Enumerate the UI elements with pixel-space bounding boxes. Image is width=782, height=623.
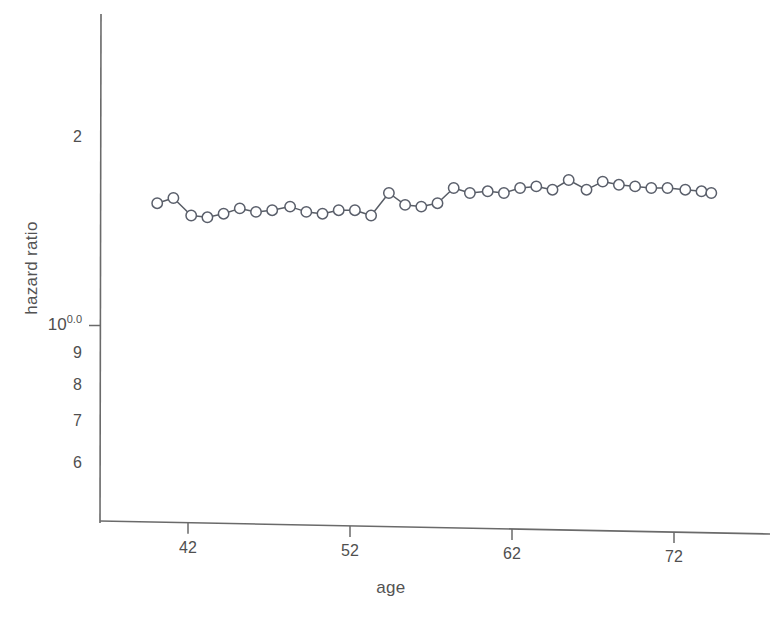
data-point [186, 210, 196, 220]
data-point [267, 205, 277, 215]
data-point [334, 205, 344, 215]
x-tick-label: 62 [482, 545, 542, 563]
data-point [251, 207, 261, 217]
data-point [432, 198, 442, 208]
data-point [581, 185, 591, 195]
x-tick-label: 72 [644, 548, 704, 566]
chart-plot-area [0, 0, 782, 623]
data-point [400, 200, 410, 210]
data-point [366, 210, 376, 220]
x-tick-label: 52 [320, 542, 380, 560]
data-point [152, 198, 162, 208]
data-markers [152, 175, 717, 223]
data-point [285, 201, 295, 211]
chart-figure: hazard ratio age 42526272 2100.09876 [0, 0, 782, 623]
data-point [547, 185, 557, 195]
data-point [317, 209, 327, 219]
data-point [614, 180, 624, 190]
data-point [598, 176, 608, 186]
data-point [301, 207, 311, 217]
data-point [483, 186, 493, 196]
y-tick-label-minor: 6 [40, 454, 82, 472]
data-point [706, 188, 716, 198]
y-axis-line [100, 14, 101, 523]
data-series-hazard-ratio [152, 175, 717, 223]
y-tick-exponent: 0.0 [67, 313, 82, 325]
data-point [168, 193, 178, 203]
data-point [531, 181, 541, 191]
data-point [662, 183, 672, 193]
y-tick-label-minor: 8 [40, 376, 82, 394]
data-point [218, 209, 228, 219]
data-point [630, 181, 640, 191]
y-tick-label: 2 [40, 128, 82, 146]
data-point [350, 205, 360, 215]
x-tick-label: 42 [158, 539, 218, 557]
axis-spines [100, 14, 770, 534]
data-point [499, 188, 509, 198]
y-tick-label-minor: 9 [40, 344, 82, 362]
data-point [564, 175, 574, 185]
data-point [646, 183, 656, 193]
data-point [235, 203, 245, 213]
data-point [202, 212, 212, 222]
data-point [515, 183, 525, 193]
data-point [416, 201, 426, 211]
y-tick-label-decade: 100.0 [20, 315, 82, 335]
data-point [680, 185, 690, 195]
data-point [449, 183, 459, 193]
x-axis-title: age [0, 578, 782, 598]
data-point [696, 186, 706, 196]
y-tick-mantissa: 10 [48, 315, 67, 334]
data-point [384, 188, 394, 198]
data-point [465, 188, 475, 198]
x-axis-line [100, 521, 770, 534]
y-tick-label-minor: 7 [40, 412, 82, 430]
tick-marks [89, 326, 674, 544]
